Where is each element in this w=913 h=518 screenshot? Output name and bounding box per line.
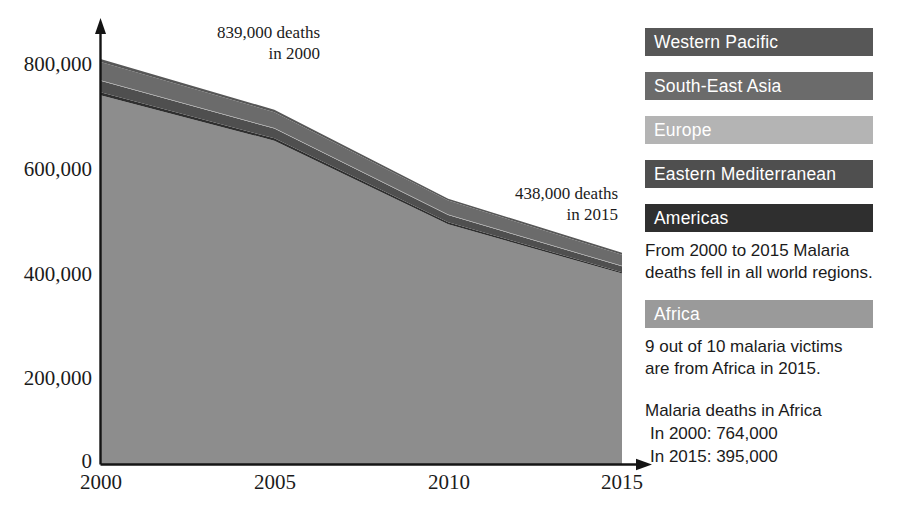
- legend-item-americas[interactable]: Americas: [645, 204, 873, 232]
- annotation-end-total: 438,000 deaths in 2015: [450, 183, 618, 226]
- legend-item-africa[interactable]: Africa: [645, 300, 873, 328]
- legend-item-eastern-mediterranean[interactable]: Eastern Mediterranean: [645, 160, 873, 188]
- legend-item-western-pacific[interactable]: Western Pacific: [645, 28, 873, 56]
- y-tick-200000: 200,000: [6, 366, 92, 391]
- y-tick-800000: 800,000: [6, 52, 92, 77]
- series-layers: [101, 59, 623, 465]
- legend-label-americas: Americas: [645, 208, 729, 229]
- note-africa-share: 9 out of 10 malaria victims are from Afr…: [645, 336, 907, 381]
- note-africa-deaths-title: Malaria deaths in Africa: [645, 400, 907, 422]
- area-band-africa: [101, 95, 623, 464]
- x-tick-2010: 2010: [404, 470, 494, 495]
- stacked-area-plot: [0, 0, 660, 518]
- legend-label-south-east-asia: South-East Asia: [645, 76, 782, 97]
- y-tick-400000: 400,000: [6, 262, 92, 287]
- note-world-regions: From 2000 to 2015 Malaria deaths fell in…: [645, 240, 907, 285]
- legend-label-africa: Africa: [645, 304, 700, 325]
- legend-label-europe: Europe: [645, 120, 712, 141]
- legend-label-eastern-mediterranean: Eastern Mediterranean: [645, 164, 836, 185]
- note-africa-2015: In 2015: 395,000: [645, 446, 912, 468]
- legend-label-western-pacific: Western Pacific: [645, 32, 778, 53]
- legend-item-europe[interactable]: Europe: [645, 116, 873, 144]
- y-axis-arrow: [95, 18, 106, 34]
- annotation-start-total: 839,000 deaths in 2000: [108, 22, 320, 65]
- note-africa-2000: In 2000: 764,000: [645, 423, 912, 445]
- x-tick-2000: 2000: [56, 470, 146, 495]
- chart-area: 800,000 600,000 400,000 200,000 0 2000 2…: [0, 0, 660, 518]
- y-tick-600000: 600,000: [6, 157, 92, 182]
- legend: Western Pacific South-East Asia Europe E…: [645, 0, 913, 518]
- legend-item-south-east-asia[interactable]: South-East Asia: [645, 72, 873, 100]
- x-tick-2005: 2005: [230, 470, 320, 495]
